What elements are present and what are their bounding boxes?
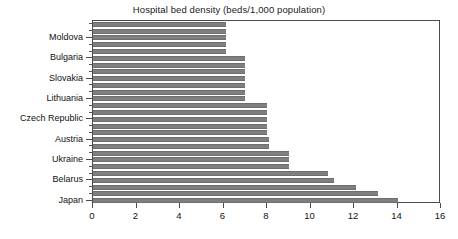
bar-row xyxy=(93,164,441,169)
bar xyxy=(93,130,267,135)
bar xyxy=(93,35,226,40)
bar xyxy=(93,164,289,169)
y-axis-label: Austria xyxy=(55,134,83,144)
bar-row xyxy=(93,103,441,108)
bar-row xyxy=(93,185,441,190)
bar xyxy=(93,42,226,47)
bar xyxy=(93,76,245,81)
bar xyxy=(93,96,245,101)
bar-row xyxy=(93,130,441,135)
x-axis-label: 14 xyxy=(391,210,402,221)
x-axis-tick xyxy=(266,203,267,208)
bar xyxy=(93,124,267,129)
bar-row xyxy=(93,42,441,47)
x-axis-label: 4 xyxy=(176,210,181,221)
bar xyxy=(93,22,226,27)
y-axis-label: Ukraine xyxy=(52,154,83,164)
bar xyxy=(93,171,328,176)
bar-row xyxy=(93,151,441,156)
y-axis-label: Slovakia xyxy=(49,73,83,83)
bar-row xyxy=(93,137,441,142)
bar-row xyxy=(93,69,441,74)
x-axis-label: 12 xyxy=(348,210,359,221)
x-axis-tick xyxy=(397,203,398,208)
x-axis: 0246810121416 xyxy=(92,203,440,233)
bar-row xyxy=(93,157,441,162)
bar-row xyxy=(93,56,441,61)
x-axis-tick xyxy=(136,203,137,208)
bar-row xyxy=(93,83,441,88)
bar xyxy=(93,49,226,54)
bar-row xyxy=(93,96,441,101)
bar-row xyxy=(93,63,441,68)
x-axis-tick xyxy=(310,203,311,208)
page-title: Hospital bed density (beds/1,000 populat… xyxy=(0,4,458,15)
bar xyxy=(93,69,245,74)
bar xyxy=(93,103,267,108)
bar xyxy=(93,144,269,149)
y-axis-label: Lithuania xyxy=(46,93,83,103)
bar xyxy=(93,191,378,196)
x-axis-label: 0 xyxy=(89,210,94,221)
y-axis-label: Bulgaria xyxy=(50,52,83,62)
bar xyxy=(93,90,245,95)
bar xyxy=(93,83,245,88)
bar xyxy=(93,137,269,142)
hospital-bed-density-chart: Hospital bed density (beds/1,000 populat… xyxy=(0,0,458,239)
y-axis-label: Belarus xyxy=(52,174,83,184)
y-axis-label: Moldova xyxy=(49,32,83,42)
bars-layer xyxy=(93,21,439,202)
bar-row xyxy=(93,171,441,176)
x-axis-label: 2 xyxy=(133,210,138,221)
bar-row xyxy=(93,22,441,27)
bar-row xyxy=(93,29,441,34)
x-axis-tick xyxy=(179,203,180,208)
bar-row xyxy=(93,90,441,95)
bar xyxy=(93,178,334,183)
bar-row xyxy=(93,76,441,81)
bar xyxy=(93,151,289,156)
bar-row xyxy=(93,110,441,115)
x-axis-tick xyxy=(440,203,441,208)
y-axis: MoldovaBulgariaSlovakiaLithuaniaCzech Re… xyxy=(0,20,92,203)
bar xyxy=(93,117,267,122)
bar-row xyxy=(93,191,441,196)
bar xyxy=(93,185,356,190)
y-axis-label: Japan xyxy=(58,195,83,205)
plot-area xyxy=(92,20,440,203)
x-axis-label: 10 xyxy=(304,210,315,221)
bar xyxy=(93,29,226,34)
x-axis-label: 16 xyxy=(435,210,446,221)
bar xyxy=(93,63,245,68)
bar-row xyxy=(93,35,441,40)
x-axis-tick xyxy=(92,203,93,208)
y-axis-label: Czech Republic xyxy=(20,113,83,123)
bar-row xyxy=(93,124,441,129)
bar xyxy=(93,157,289,162)
bar-row xyxy=(93,49,441,54)
bar xyxy=(93,110,267,115)
bar-row xyxy=(93,178,441,183)
bar xyxy=(93,56,245,61)
x-axis-label: 8 xyxy=(263,210,268,221)
x-axis-tick xyxy=(353,203,354,208)
bar-row xyxy=(93,117,441,122)
bar-row xyxy=(93,144,441,149)
x-axis-label: 6 xyxy=(220,210,225,221)
x-axis-tick xyxy=(223,203,224,208)
